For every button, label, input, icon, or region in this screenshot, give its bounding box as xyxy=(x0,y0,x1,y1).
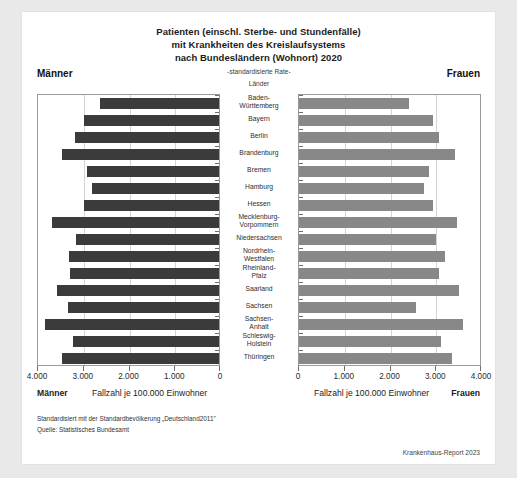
bar-frauen-mecklenburg-vorpommern xyxy=(299,217,457,228)
axis-tick-label: 4.000 xyxy=(27,372,48,381)
axis-tick xyxy=(129,366,130,371)
bar-männer-sachsen xyxy=(68,302,219,313)
caption-left-axis: Fallzahl je 100.000 Einwohner xyxy=(92,388,207,398)
axis-tick xyxy=(344,366,345,371)
bar-männer-rheinland-pfalz xyxy=(70,268,219,279)
state-label-nordrhein-westfalen: Nordrhein-Westfalen xyxy=(198,247,320,262)
axis-tick-label: 2.000 xyxy=(379,372,400,381)
state-label-th-ringen: Thüringen xyxy=(198,353,320,361)
bar-frauen-schleswig-holstein xyxy=(299,336,441,347)
state-label-saarland: Saarland xyxy=(198,285,320,293)
state-label-baden-w-rttemberg: Baden-Württemberg xyxy=(198,94,320,109)
axis-label-laender: Länder xyxy=(198,80,320,87)
chart-title-line-2: mit Krankheiten des Kreislaufsystems xyxy=(22,38,495,51)
axis-tick-label: 2.000 xyxy=(118,372,139,381)
axis-tick xyxy=(435,366,436,371)
chart-card: Patienten (einschl. Sterbe- und Stundenf… xyxy=(22,12,495,464)
axis-tick-label: 1.000 xyxy=(164,372,185,381)
bar-frauen-nordrhein-westfalen xyxy=(299,251,445,262)
state-label-rheinland-pfalz: Rheinland-Pfalz xyxy=(198,264,320,279)
footnote-quelle: Quelle: Statistisches Bundesamt xyxy=(37,426,129,433)
axis-tick xyxy=(219,366,220,371)
women-bar-chart-plot xyxy=(298,94,481,366)
caption-right-axis: Fallzahl je 100.000 Einwohner xyxy=(314,388,429,398)
subtitle-standardisierte-rate: -standardisierte Rate- xyxy=(198,68,320,75)
credit-line: Krankenhaus-Report 2023 xyxy=(403,449,480,456)
bar-männer-brandenburg xyxy=(62,149,219,160)
bar-frauen-sachsen-anhalt xyxy=(299,319,463,330)
state-label-niedersachsen: Niedersachsen xyxy=(198,234,320,242)
state-label-brandenburg: Brandenburg xyxy=(198,149,320,157)
axis-tick-label: 4.000 xyxy=(471,372,492,381)
axis-tick-label: 0 xyxy=(296,372,301,381)
axis-tick-label: 3.000 xyxy=(425,372,446,381)
bar-frauen-rheinland-pfalz xyxy=(299,268,439,279)
axis-tick xyxy=(480,366,481,371)
header-label-maenner: Männer xyxy=(37,68,73,79)
state-label-sachsen-anhalt: Sachsen-Anhalt xyxy=(198,315,320,330)
men-x-axis: 01.0002.0003.0004.000 xyxy=(37,366,220,373)
bar-frauen-saarland xyxy=(299,285,459,296)
chart-title-line-1: Patienten (einschl. Sterbe- und Stundenf… xyxy=(22,25,495,38)
bar-männer-sachsen-anhalt xyxy=(45,319,219,330)
bar-männer-mecklenburg-vorpommern xyxy=(52,217,219,228)
state-label-sachsen: Sachsen xyxy=(198,302,320,310)
axis-tick xyxy=(83,366,84,371)
women-x-axis: 01.0002.0003.0004.000 xyxy=(298,366,481,373)
state-label-bremen: Bremen xyxy=(198,166,320,174)
axis-tick-label: 3.000 xyxy=(73,372,94,381)
state-label-bayern: Bayern xyxy=(198,115,320,123)
state-label-column: Baden-WürttembergBayernBerlinBrandenburg… xyxy=(198,94,320,366)
bar-frauen-brandenburg xyxy=(299,149,455,160)
caption-maenner: Männer xyxy=(37,388,68,398)
bar-männer-nordrhein-westfalen xyxy=(69,251,220,262)
footnote-standardisiert: Standardisiert mit der Standardbevölkeru… xyxy=(37,415,216,422)
bar-frauen-berlin xyxy=(299,132,439,143)
axis-tick-label: 0 xyxy=(218,372,223,381)
axis-tick xyxy=(390,366,391,371)
bar-männer-saarland xyxy=(57,285,219,296)
state-label-hamburg: Hamburg xyxy=(198,183,320,191)
bar-frauen-th-ringen xyxy=(299,353,452,364)
men-bar-chart-plot xyxy=(37,94,220,366)
chart-title-line-3: nach Bundesländern (Wohnort) 2020 xyxy=(22,51,495,64)
header-label-frauen: Frauen xyxy=(447,68,480,79)
axis-tick xyxy=(298,366,299,371)
axis-tick xyxy=(174,366,175,371)
axis-tick xyxy=(37,366,38,371)
chart-title: Patienten (einschl. Sterbe- und Stundenf… xyxy=(22,25,495,65)
caption-frauen: Frauen xyxy=(451,388,480,398)
state-label-schleswig-holstein: Schleswig-Holstein xyxy=(198,332,320,347)
state-label-mecklenburg-vorpommern: Mecklenburg-Vorpommern xyxy=(198,213,320,228)
axis-tick-label: 1.000 xyxy=(334,372,355,381)
bar-männer-th-ringen xyxy=(62,353,219,364)
state-label-hessen: Hessen xyxy=(198,200,320,208)
state-label-berlin: Berlin xyxy=(198,132,320,140)
